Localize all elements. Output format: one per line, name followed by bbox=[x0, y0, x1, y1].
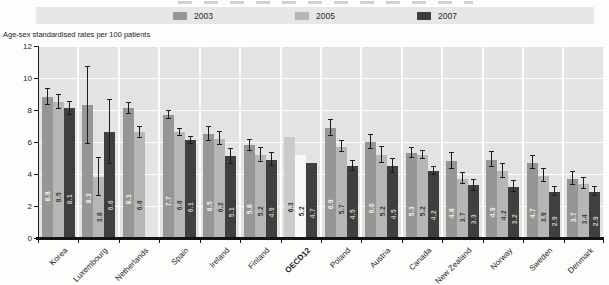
legend-item: 2005 bbox=[295, 11, 335, 21]
error-bar-cap bbox=[489, 151, 494, 152]
bar-slot: 5.7 bbox=[336, 46, 347, 238]
bar-slot: 3.2 bbox=[508, 46, 519, 238]
error-bar-cap bbox=[56, 94, 61, 95]
category-label: Ireland bbox=[207, 246, 231, 270]
error-bar-cap bbox=[96, 157, 101, 158]
category-label: Sweden bbox=[528, 246, 555, 273]
bar-slot: 4.9 bbox=[266, 46, 277, 238]
bar-group: 4.83.73.3 bbox=[443, 46, 481, 238]
bar-2007: 4.2 bbox=[428, 171, 439, 238]
bar-2005: 6.6 bbox=[134, 132, 145, 238]
bar-2005: 4.2 bbox=[497, 171, 508, 238]
error-bar-cap bbox=[269, 165, 274, 166]
bar-group: 5.85.24.9 bbox=[241, 46, 279, 238]
bar-2007: 2.9 bbox=[589, 192, 600, 238]
error-bar-cap bbox=[126, 102, 131, 103]
error-bar-cap bbox=[258, 161, 263, 162]
category-label: New Zealand bbox=[434, 246, 474, 285]
error-bar-cap bbox=[107, 163, 112, 164]
error-bar-cap bbox=[45, 88, 50, 89]
bar-slot: 3.7 bbox=[457, 46, 468, 238]
plot-area: 8.88.58.18.33.86.68.16.67.76.66.16.56.25… bbox=[38, 46, 604, 238]
error-bar-cap bbox=[350, 160, 355, 161]
error-bar-cap bbox=[177, 128, 182, 129]
error-bar-cap bbox=[489, 166, 494, 167]
bar-2005: 3.9 bbox=[538, 176, 549, 238]
y-tick-label: 10 bbox=[10, 74, 32, 83]
bar-2003: 6.9 bbox=[325, 128, 336, 238]
bar-2007: 3.3 bbox=[468, 185, 479, 238]
bar-2005: 3.4 bbox=[578, 184, 589, 238]
bar-2003: 4.7 bbox=[527, 163, 538, 238]
error-bar-cap bbox=[328, 119, 333, 120]
error-bar-cap bbox=[96, 195, 101, 196]
error-bar-cap bbox=[137, 137, 142, 138]
bar-value-label: 3.9 bbox=[540, 212, 547, 222]
y-tick bbox=[34, 206, 38, 207]
bar-slot: 7.7 bbox=[163, 46, 174, 238]
bar-group: 6.35.24.7 bbox=[282, 46, 320, 238]
category-label: Norway bbox=[489, 246, 515, 272]
legend-label: 2005 bbox=[316, 11, 335, 21]
bar-value-label: 4.5 bbox=[389, 209, 396, 219]
bar-slot: 6.5 bbox=[203, 46, 214, 238]
bar-value-label: 8.1 bbox=[66, 194, 73, 204]
chart-page: 200320052007 Age-sex standardised rates … bbox=[0, 0, 609, 285]
bar-slot: 5.2 bbox=[376, 46, 387, 238]
bar-2007: 8.1 bbox=[64, 108, 75, 238]
bar-2007: 4.7 bbox=[306, 163, 317, 238]
error-bar-cap bbox=[420, 158, 425, 159]
bar-value-label: 6.6 bbox=[136, 200, 143, 210]
bar-slot: 6.9 bbox=[325, 46, 336, 238]
bar-slot: 4.5 bbox=[347, 46, 358, 238]
bar-slot: 4.9 bbox=[486, 46, 497, 238]
bar-slot: 2.9 bbox=[549, 46, 560, 238]
error-bar-cap bbox=[228, 148, 233, 149]
legend-label: 2003 bbox=[194, 11, 213, 21]
bar-2003: 4.8 bbox=[446, 161, 457, 238]
bar-2005: 5.7 bbox=[336, 147, 347, 238]
bar-slot: 8.3 bbox=[82, 46, 93, 238]
y-tick-label: 12 bbox=[10, 42, 32, 51]
bar-2007: 4.5 bbox=[387, 166, 398, 238]
bar-value-label: 3.7 bbox=[459, 212, 466, 222]
legend: 200320052007 bbox=[36, 7, 594, 24]
bar-2003: 6.0 bbox=[365, 142, 376, 238]
category-label: Luxembourg bbox=[72, 246, 110, 284]
category-label: Korea bbox=[48, 246, 69, 267]
error-bar-cap bbox=[166, 118, 171, 119]
legend-swatch-2003-icon bbox=[173, 12, 187, 20]
x-tick bbox=[240, 240, 241, 243]
bar-2003: 6.3 bbox=[284, 137, 295, 238]
bar-group: 7.76.66.1 bbox=[160, 46, 198, 238]
error-bar bbox=[451, 153, 452, 169]
error-bar-cap bbox=[500, 177, 505, 178]
error-bar-cap bbox=[228, 163, 233, 164]
error-bar-cap bbox=[350, 170, 355, 171]
error-bar-cap bbox=[217, 131, 222, 132]
x-tick bbox=[564, 240, 565, 243]
error-bar-cap bbox=[247, 139, 252, 140]
bar-value-label: 3.7 bbox=[569, 212, 576, 222]
x-tick bbox=[483, 240, 484, 243]
bar-value-label: 5.2 bbox=[419, 206, 426, 216]
bar-slot: 4.8 bbox=[446, 46, 457, 238]
category-label: Canada bbox=[407, 246, 433, 272]
bar-slot: 4.5 bbox=[387, 46, 398, 238]
x-tick bbox=[159, 240, 160, 243]
bar-slot: 5.2 bbox=[417, 46, 428, 238]
bar-group: 8.33.86.6 bbox=[79, 46, 117, 238]
y-tick bbox=[34, 174, 38, 175]
bar-slot: 8.1 bbox=[64, 46, 75, 238]
error-bar-cap bbox=[56, 108, 61, 109]
bar-slot: 8.5 bbox=[53, 46, 64, 238]
category-label: Netherlands bbox=[113, 246, 150, 283]
error-bar-cap bbox=[269, 152, 274, 153]
error-bar bbox=[392, 159, 393, 173]
error-bar-cap bbox=[581, 177, 586, 178]
bar-value-label: 8.5 bbox=[55, 192, 62, 202]
error-bar bbox=[370, 135, 371, 149]
y-tick-label: 4 bbox=[10, 170, 32, 179]
error-bar-cap bbox=[409, 147, 414, 148]
error-bar-cap bbox=[85, 143, 90, 144]
